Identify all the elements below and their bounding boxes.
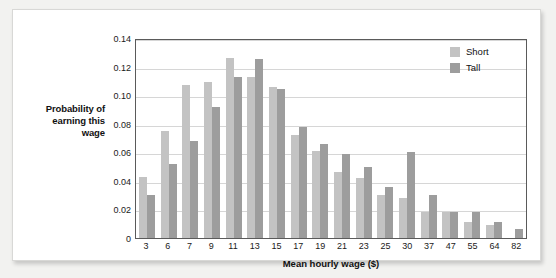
bar-short-55 — [464, 222, 472, 238]
bar-short-30 — [399, 198, 407, 238]
bar-tall-23 — [364, 167, 372, 238]
x-tick-label: 82 — [505, 241, 527, 257]
y-tick-label: 0.12 — [91, 63, 131, 73]
x-tick-label: 30 — [396, 241, 418, 257]
x-tick-label: 17 — [287, 241, 309, 257]
x-tick-label: 64 — [484, 241, 506, 257]
bar-group — [266, 40, 288, 238]
figure-container: Probability of earning this wage 00.020.… — [0, 0, 556, 278]
bar-short-11 — [226, 58, 234, 238]
y-axis-ticks: 00.020.040.060.080.100.120.14 — [89, 39, 131, 239]
bar-short-6 — [161, 131, 169, 238]
x-tick-label: 6 — [157, 241, 179, 257]
bar-group — [244, 40, 266, 238]
bar-group — [353, 40, 375, 238]
bar-tall-3 — [147, 195, 155, 238]
x-tick-label: 19 — [309, 241, 331, 257]
bar-short-37 — [421, 212, 429, 238]
bar-tall-21 — [342, 154, 350, 238]
bar-short-25 — [377, 195, 385, 238]
x-tick-label: 55 — [462, 241, 484, 257]
bar-tall-47 — [450, 212, 458, 238]
y-tick-label: 0.08 — [91, 120, 131, 130]
bar-tall-37 — [429, 195, 437, 238]
x-axis-title: Mean hourly wage ($) — [135, 258, 527, 269]
bar-tall-9 — [212, 107, 220, 238]
bar-tall-64 — [494, 222, 502, 238]
bar-short-23 — [356, 178, 364, 238]
bar-short-21 — [334, 172, 342, 238]
y-tick-label: 0.14 — [91, 34, 131, 44]
x-tick-label: 25 — [375, 241, 397, 257]
x-tick-label: 15 — [266, 241, 288, 257]
bar-group — [288, 40, 310, 238]
bar-tall-11 — [234, 77, 242, 238]
bar-tall-55 — [472, 212, 480, 238]
bar-group — [331, 40, 353, 238]
legend-label: Short — [466, 46, 489, 57]
legend-swatch-tall — [450, 63, 460, 73]
x-tick-label: 11 — [222, 241, 244, 257]
bar-short-9 — [204, 82, 212, 238]
bar-short-17 — [291, 135, 299, 238]
bar-group — [374, 40, 396, 238]
bar-tall-25 — [385, 187, 393, 238]
x-tick-label: 23 — [353, 241, 375, 257]
y-tick-label: 0 — [91, 234, 131, 244]
bar-short-13 — [247, 77, 255, 238]
x-tick-label: 13 — [244, 241, 266, 257]
bar-tall-82 — [515, 229, 523, 238]
legend-swatch-short — [450, 47, 460, 57]
legend: ShortTall — [450, 46, 520, 78]
bar-short-47 — [442, 212, 450, 238]
bar-tall-13 — [255, 59, 263, 238]
bar-group — [223, 40, 245, 238]
y-tick-label: 0.06 — [91, 148, 131, 158]
chart-card: Probability of earning this wage 00.020.… — [12, 9, 541, 261]
legend-item-short: Short — [450, 46, 520, 57]
bar-short-7 — [182, 85, 190, 238]
legend-label: Tall — [466, 62, 480, 73]
x-tick-label: 7 — [179, 241, 201, 257]
bar-short-3 — [139, 177, 147, 238]
bar-group — [201, 40, 223, 238]
y-tick-label: 0.10 — [91, 91, 131, 101]
bar-tall-17 — [299, 127, 307, 238]
bar-group — [309, 40, 331, 238]
bar-short-19 — [312, 151, 320, 238]
bar-tall-19 — [320, 144, 328, 238]
bar-tall-7 — [190, 141, 198, 238]
bar-group — [396, 40, 418, 238]
bar-group — [418, 40, 440, 238]
bar-tall-6 — [169, 164, 177, 238]
bar-short-15 — [269, 87, 277, 238]
bar-short-64 — [486, 225, 494, 238]
bar-tall-15 — [277, 89, 285, 238]
x-tick-label: 21 — [331, 241, 353, 257]
bar-group — [158, 40, 180, 238]
y-tick-label: 0.02 — [91, 205, 131, 215]
bar-tall-30 — [407, 152, 415, 238]
x-tick-label: 9 — [200, 241, 222, 257]
x-axis-ticks: 36791113151719212325303747556482 — [135, 241, 527, 257]
legend-item-tall: Tall — [450, 62, 520, 73]
x-tick-label: 37 — [418, 241, 440, 257]
bar-group — [179, 40, 201, 238]
bar-group — [136, 40, 158, 238]
x-tick-label: 3 — [135, 241, 157, 257]
x-tick-label: 47 — [440, 241, 462, 257]
y-tick-label: 0.04 — [91, 177, 131, 187]
